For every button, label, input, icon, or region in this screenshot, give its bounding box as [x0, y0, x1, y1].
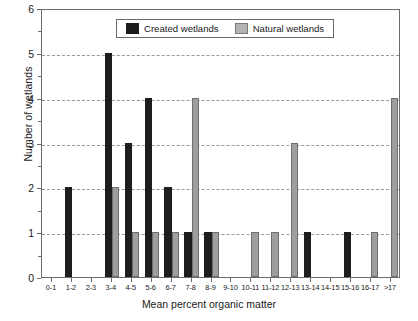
y-tick-label-1: 1: [12, 228, 34, 238]
x-tick-6-7: [171, 278, 172, 282]
legend-label-natural: Natural wetlands: [253, 23, 324, 34]
bar-created-8-9: [204, 232, 211, 277]
bar-natural->17: [391, 98, 398, 277]
x-tick-label-13-14: 13-14: [301, 283, 319, 292]
legend-entry-created: Created wetlands: [126, 23, 219, 34]
x-tick-label-9-10: 9-10: [223, 283, 237, 292]
plot-area: [41, 9, 400, 278]
legend-entry-natural: Natural wetlands: [235, 23, 324, 34]
x-tick-14-15: [330, 278, 331, 282]
bar-natural-11-12: [271, 232, 278, 277]
bar-created-5-6: [145, 98, 152, 277]
x-tick-3-4: [111, 278, 112, 282]
bar-created-3-4: [105, 53, 112, 277]
bar-natural-5-6: [152, 232, 159, 277]
x-tick-15-16: [350, 278, 351, 282]
x-tick-16-17: [370, 278, 371, 282]
x-tick-label-15-16: 15-16: [341, 283, 359, 292]
bar-created-6-7: [164, 187, 171, 277]
x-tick-label-5-6: 5-6: [145, 283, 155, 292]
x-tick-9-10: [230, 278, 231, 282]
bar-created-7-8: [184, 232, 191, 277]
y-tick-label-0: 0: [12, 273, 34, 283]
gridline-4: [42, 100, 399, 101]
x-tick-label-14-15: 14-15: [321, 283, 339, 292]
x-tick-label->17: >17: [384, 283, 396, 292]
gridline-5: [42, 55, 399, 56]
chart-legend: Created wetlands Natural wetlands: [116, 19, 334, 38]
x-tick-2-3: [91, 278, 92, 282]
y-tick-label-3: 3: [12, 139, 34, 149]
bar-created-4-5: [125, 143, 132, 278]
bar-created-13-14: [304, 232, 311, 277]
x-tick-label-1-2: 1-2: [66, 283, 76, 292]
x-tick-7-8: [191, 278, 192, 282]
bar-natural-10-11: [251, 232, 258, 277]
bar-natural-7-8: [192, 98, 199, 277]
x-tick-12-13: [290, 278, 291, 282]
x-tick-label-0-1: 0-1: [46, 283, 56, 292]
wetlands-bar-chart: Number of wetlands 0123456 0-11-22-33-44…: [0, 0, 418, 321]
x-tick-8-9: [211, 278, 212, 282]
x-tick-11-12: [270, 278, 271, 282]
x-tick-label-11-12: 11-12: [261, 283, 279, 292]
x-tick-4-5: [131, 278, 132, 282]
legend-swatch-created-icon: [126, 23, 139, 34]
legend-label-created: Created wetlands: [144, 23, 219, 34]
bar-natural-4-5: [132, 232, 139, 277]
x-tick-label-10-11: 10-11: [241, 283, 259, 292]
y-tick-label-4: 4: [12, 94, 34, 104]
bar-natural-16-17: [371, 232, 378, 277]
x-tick-1-2: [71, 278, 72, 282]
x-tick-label-12-13: 12-13: [281, 283, 299, 292]
x-tick-label-16-17: 16-17: [361, 283, 379, 292]
y-tick-label-6: 6: [12, 4, 34, 14]
bar-natural-3-4: [112, 187, 119, 277]
plot-inner: [42, 10, 399, 277]
bar-created-1-2: [65, 187, 72, 277]
bar-natural-8-9: [212, 232, 219, 277]
x-tick-label-6-7: 6-7: [165, 283, 175, 292]
x-tick-label-3-4: 3-4: [106, 283, 116, 292]
gridline-2: [42, 189, 399, 190]
x-tick-5-6: [151, 278, 152, 282]
y-tick-label-2: 2: [12, 183, 34, 193]
x-tick->17: [390, 278, 391, 282]
x-tick-label-8-9: 8-9: [205, 283, 215, 292]
y-tick-label-5: 5: [12, 49, 34, 59]
x-tick-label-2-3: 2-3: [86, 283, 96, 292]
x-axis-title: Mean percent organic matter: [0, 298, 418, 310]
x-tick-13-14: [310, 278, 311, 282]
bar-natural-12-13: [291, 143, 298, 278]
y-tick-0: [37, 278, 41, 279]
x-tick-label-7-8: 7-8: [185, 283, 195, 292]
x-tick-10-11: [250, 278, 251, 282]
gridline-3: [42, 145, 399, 146]
x-tick-label-4-5: 4-5: [126, 283, 136, 292]
bar-natural-6-7: [172, 232, 179, 277]
x-tick-0-1: [51, 278, 52, 282]
bar-created-15-16: [344, 232, 351, 277]
legend-swatch-natural-icon: [235, 23, 248, 34]
